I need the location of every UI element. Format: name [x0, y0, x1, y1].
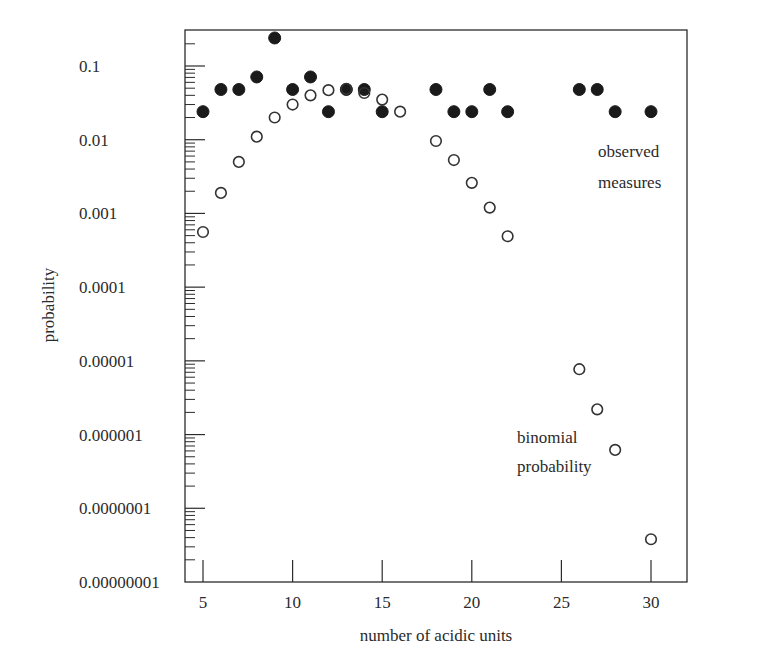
observed-data-point: [502, 106, 514, 118]
x-tick-label: 5: [199, 593, 208, 612]
observed-data-point: [573, 83, 585, 95]
observed-data-point: [215, 83, 227, 95]
y-axis-label: probability: [39, 267, 58, 342]
x-axis-ticks: [203, 560, 651, 582]
observed-data-point: [645, 106, 657, 118]
binomial-data-point: [574, 364, 585, 375]
x-tick-label: 30: [643, 593, 660, 612]
binomial-data-point: [216, 188, 227, 199]
observed-data-point: [609, 106, 621, 118]
binomial-data-point: [484, 202, 495, 213]
observed-data-point: [287, 83, 299, 95]
x-tick-label: 25: [553, 593, 570, 612]
binomial-data-point: [287, 99, 298, 110]
binomial-data-point: [592, 404, 603, 415]
observed-data-point: [376, 106, 388, 118]
binomial-data-point: [449, 155, 460, 166]
observed-data-point: [591, 83, 603, 95]
binomial-data-point: [305, 90, 316, 101]
y-tick-label: 0.1: [79, 57, 100, 76]
binomial-data-point: [323, 85, 334, 96]
x-axis-label: number of acidic units: [360, 626, 513, 645]
observed-data-point: [305, 71, 317, 83]
y-tick-label: 0.00000001: [79, 573, 160, 592]
binomial-data-point: [646, 534, 657, 545]
annotation-binomial-line1: binomial: [517, 428, 578, 447]
y-tick-label: 0.01: [79, 131, 109, 150]
scatter-chart: 0.10.010.0010.00010.000010.0000010.00000…: [0, 0, 761, 671]
binomial-data-point: [502, 231, 513, 242]
binomial-data-point: [198, 227, 209, 238]
y-tick-label: 0.00001: [79, 352, 134, 371]
observed-data-point: [430, 83, 442, 95]
y-axis-tick-labels: 0.10.010.0010.00010.000010.0000010.00000…: [79, 57, 160, 592]
x-tick-label: 15: [374, 593, 391, 612]
annotation-observed-line1: observed: [598, 142, 660, 161]
binomial-probability-annotation: binomial probability: [517, 428, 592, 476]
observed-data-point: [233, 83, 245, 95]
binomial-data-point: [269, 112, 280, 123]
y-tick-label: 0.0001: [79, 278, 126, 297]
y-tick-label: 0.0000001: [79, 499, 151, 518]
observed-data-point: [322, 106, 334, 118]
observed-measures-series: [197, 32, 657, 118]
x-tick-label: 10: [284, 593, 301, 612]
binomial-data-point: [377, 94, 388, 105]
binomial-data-point: [234, 157, 245, 168]
y-tick-label: 0.000001: [79, 426, 143, 445]
y-tick-label: 0.001: [79, 204, 117, 223]
observed-data-point: [269, 32, 281, 44]
x-tick-label: 20: [463, 593, 480, 612]
observed-data-point: [466, 106, 478, 118]
binomial-data-point: [431, 136, 442, 147]
binomial-data-point: [251, 131, 262, 142]
binomial-data-point: [395, 106, 406, 117]
binomial-data-point: [610, 445, 621, 456]
observed-data-point: [197, 106, 209, 118]
observed-data-point: [484, 83, 496, 95]
binomial-data-point: [467, 178, 478, 189]
observed-data-point: [448, 106, 460, 118]
observed-data-point: [251, 71, 263, 83]
annotation-binomial-line2: probability: [517, 457, 592, 476]
observed-measures-annotation: observed measures: [598, 142, 661, 192]
annotation-observed-line2: measures: [598, 173, 661, 192]
x-axis-tick-labels: 51015202530: [199, 593, 660, 612]
y-axis-ticks: [185, 44, 205, 560]
